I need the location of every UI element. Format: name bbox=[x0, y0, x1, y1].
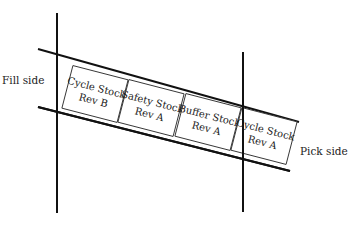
box-cycle-stock-rev-a: Cycle Stock Rev A bbox=[230, 107, 300, 165]
pick-side-label: Pick side bbox=[300, 145, 348, 157]
fill-side-label: Fill side bbox=[2, 74, 44, 86]
flow-rack-diagram: Cycle Stock Rev B Safety Stock Rev A Buf… bbox=[0, 0, 354, 227]
